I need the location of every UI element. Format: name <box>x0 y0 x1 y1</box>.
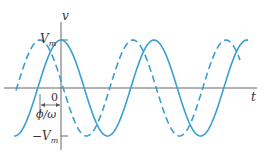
vm-label: Vm <box>40 33 56 48</box>
t-axis-label: t <box>251 91 256 103</box>
origin-label: 0 <box>51 92 58 103</box>
phase-label: ϕ/ω <box>36 109 56 120</box>
v-axis-label: v <box>62 10 69 22</box>
neg-vm-label: −Vm <box>32 130 58 145</box>
